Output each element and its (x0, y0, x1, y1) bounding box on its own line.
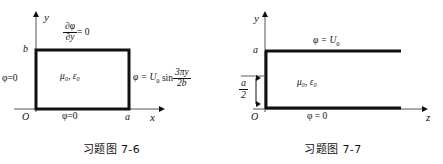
tick-label-b: b (23, 44, 28, 54)
figure-7-6-svg (0, 0, 223, 132)
bc-right-function: sin (162, 73, 173, 83)
bc-bottom-dirichlet: φ=0 (62, 112, 78, 122)
y-axis-label: y (254, 13, 259, 24)
bc-top-numerator: ∂φ (63, 22, 77, 32)
origin-label: O (251, 112, 258, 122)
bc-right-denominator: 2b (173, 78, 191, 89)
figure-7-7: y z O a a 2 φ = U0 φ = 0 μ₀, ε₀ 习题图 7-7 (223, 0, 443, 164)
bc-right-lhs: φ = U0 (133, 72, 160, 82)
bc-top-fraction: ∂φ ∂y (63, 22, 77, 43)
bc-right-numerator: 3πy (173, 68, 191, 78)
tick-label-a: a (125, 112, 130, 122)
gap-denominator: 2 (239, 89, 248, 101)
gap-numerator: a (239, 78, 248, 89)
bc-top-plate-lhs: φ = U (313, 35, 336, 45)
figure-7-6-caption: 习题图 7-6 (0, 140, 223, 156)
bc-top-rhs: = 0 (77, 27, 89, 37)
figure-7-6: y x O b a ∂φ ∂y = 0 φ=0 φ=0 φ = U0 sin 3… (0, 0, 223, 164)
domain-rectangle (36, 50, 129, 109)
z-axis-label: z (426, 112, 430, 123)
bc-right-sinusoidal: φ = U0 sin 3πy 2b (133, 68, 191, 89)
medium-label-mu-epsilon: μ₀, ε₀ (60, 72, 80, 82)
bc-right-lhs-text: φ = U (133, 72, 156, 82)
bc-top-plate-sub: 0 (336, 40, 339, 47)
bc-right-fraction: 3πy 2b (173, 68, 191, 89)
gap-fraction: a 2 (239, 78, 248, 100)
x-axis-label: x (150, 112, 155, 123)
bc-left-dirichlet: φ=0 (2, 74, 18, 84)
bc-right-lhs-sub: 0 (156, 77, 159, 84)
origin-label: O (22, 112, 29, 122)
bc-top-denominator: ∂y (63, 32, 77, 43)
figure-7-7-caption: 习题图 7-7 (223, 140, 443, 156)
medium-label-mu-epsilon: μ₀, ε₀ (297, 78, 317, 88)
gap-dimension-label: a 2 (239, 78, 248, 100)
y-axis-label: y (44, 12, 49, 23)
figure-7-6-drawing (0, 0, 223, 132)
bc-bottom-plate-potential: φ = 0 (307, 112, 327, 122)
bc-top-neumann: ∂φ ∂y = 0 (63, 22, 89, 43)
figure-sheet: y x O b a ∂φ ∂y = 0 φ=0 φ=0 φ = U0 sin 3… (0, 0, 443, 164)
tick-label-a: a (253, 45, 258, 55)
bc-top-plate-potential: φ = U0 (313, 36, 340, 47)
